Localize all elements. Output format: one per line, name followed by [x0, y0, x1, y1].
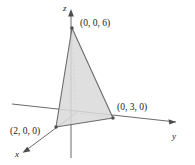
z-axis-label: z — [62, 3, 67, 13]
vertex-dot-z-intercept — [70, 26, 73, 29]
vertex-label-y-intercept: (0, 3, 0) — [117, 102, 147, 113]
z-axis-arrowhead — [68, 9, 74, 17]
vertex-label-z-intercept: (0, 0, 6) — [80, 18, 110, 29]
x-axis-label: x — [14, 149, 19, 159]
y-axis-arrowhead — [169, 119, 177, 124]
figure-canvas: z y x (0, 0, 6) (0, 3, 0) (2, 0, 0) — [0, 0, 195, 165]
vertex-dot-x-intercept — [54, 125, 57, 128]
y-axis-label: y — [171, 131, 176, 141]
3d-plane-figure: z y x (0, 0, 6) (0, 3, 0) (2, 0, 0) — [0, 0, 195, 165]
vertex-dot-y-intercept — [111, 116, 114, 119]
vertex-label-x-intercept: (2, 0, 0) — [10, 126, 40, 137]
plane-triangle — [56, 28, 113, 127]
